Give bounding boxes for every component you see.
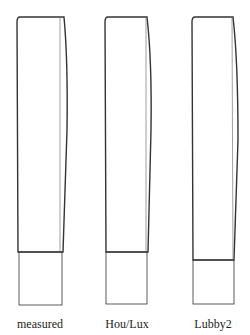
specimen-diagram bbox=[0, 0, 250, 335]
upper-deformed-outline bbox=[105, 17, 151, 252]
label-lubby2: Lubby2 bbox=[178, 317, 248, 332]
label-hou-lux: Hou/Lux bbox=[92, 317, 162, 332]
lower-block bbox=[193, 260, 234, 304]
specimen-shape-lubby2 bbox=[192, 17, 238, 304]
inner-right-edge bbox=[232, 17, 233, 260]
specimen-shape-hou-lux bbox=[105, 17, 151, 304]
lower-block bbox=[19, 252, 62, 305]
label-measured: measured bbox=[5, 317, 75, 332]
lower-block bbox=[106, 252, 147, 304]
specimen-shape-measured bbox=[17, 17, 67, 305]
upper-deformed-outline bbox=[192, 17, 238, 260]
